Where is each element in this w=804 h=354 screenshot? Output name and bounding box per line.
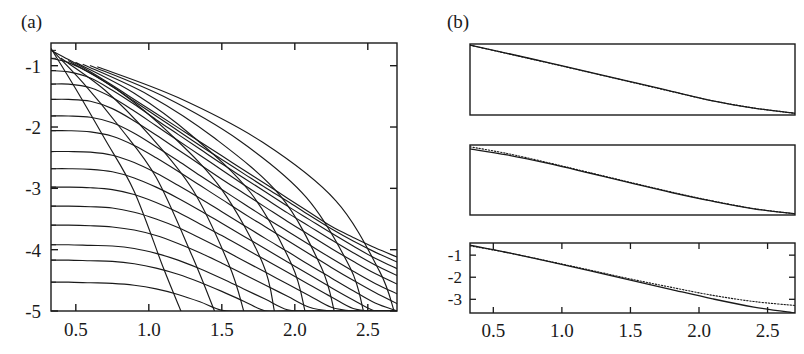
panel-a-xtick-label: 1.0 [137,319,161,340]
panel-b-plot: 0.51.01.52.02.5-1-2-3 [448,44,795,341]
plot-canvas: -1-2-3-4-50.51.01.52.02.5 0.51.01.52.02.… [0,0,804,354]
panel-a-curve-family [51,49,397,312]
curve-family-b-3 [61,58,243,311]
panel-a-xtick-label: 2.0 [283,319,307,340]
curve-family-a-13 [51,245,397,311]
panel-b-xtick-label: 1.0 [550,320,574,341]
panel-a-ytick-label: -2 [25,117,41,138]
panel-a-ytick-label: -5 [25,301,41,322]
panel-b-xtick-label: 0.5 [481,320,505,341]
curve-family-a-7 [51,131,397,304]
curve-b-middle-solid-curve [470,149,795,214]
panel-a-ytick-label: -4 [25,240,41,261]
panel-a-xtick-label: 2.5 [356,319,380,340]
panel-b-xtick-label: 2.5 [756,320,780,341]
figure-container: (a) (b) -1-2-3-4-50.51.01.52.02.5 0.51.0… [0,0,804,354]
panel-b-ytick-label: -2 [448,268,462,287]
panel-b-top-axis-frame [470,44,795,115]
curve-family-a-9 [51,169,397,312]
panel-a-ytick-label: -1 [25,56,41,77]
curve-family-a-6 [51,116,397,294]
panel-b-xtick-label: 2.0 [687,320,711,341]
panel-b-bottom-curves [470,245,795,313]
panel-b-xtick-label: 1.5 [619,320,643,341]
panel-b-ytick-label: -3 [448,290,462,309]
curve-b-top-solid-curve [470,45,795,113]
curve-b-bottom-dotted-curve [470,246,795,306]
curve-family-a-4 [51,84,397,276]
panel-a-xtick-label: 1.5 [210,319,234,340]
panel-a-axis-frame [51,43,397,311]
panel-b-top-curves [470,45,795,113]
panel-b-ytick-label: -1 [448,246,462,265]
curve-family-a-12 [51,225,397,311]
curve-family-a-8 [51,152,397,311]
panel-a-ytick-label: -3 [25,178,41,199]
curve-family-b-8 [98,67,394,311]
curve-family-a-3 [51,71,397,269]
panel-a-xtick-label: 0.5 [64,319,88,340]
panel-a-plot: -1-2-3-4-50.51.01.52.02.5 [25,43,397,340]
panel-b-bottom-axis-frame [470,243,795,313]
panel-b-middle-curves [470,147,795,214]
